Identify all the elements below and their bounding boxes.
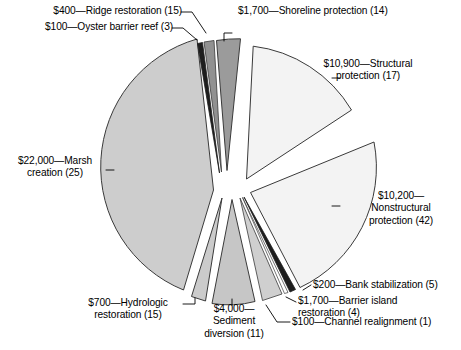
label-nonstructural-protection-line2: Nonstructural — [345, 202, 457, 214]
label-nonstructural-protection: $10,200— Nonstructural protection (42) — [345, 190, 457, 227]
label-sediment-diversion-line3: diversion (11) — [186, 328, 282, 340]
label-nonstructural-protection-line3: protection (42) — [345, 215, 457, 227]
label-hydrologic-restoration-line1: $700—Hydrologic — [74, 297, 182, 309]
label-structural-protection-line1: $10,900—Structural — [303, 58, 433, 70]
leader-barrier-island-restoration — [286, 297, 296, 302]
label-sediment-diversion-line2: Sediment — [186, 315, 282, 327]
slice-marsh-creation[interactable] — [101, 39, 214, 290]
label-sediment-diversion-line1: $4,000— — [186, 303, 282, 315]
label-hydrologic-restoration: $700—Hydrologic restoration (15) — [74, 297, 182, 322]
label-barrier-island-restoration-line1: $1,700—Barrier island — [298, 295, 458, 307]
pie-chart-figure: $400—Ridge restoration (15) $100—Oyster … — [0, 0, 461, 350]
label-marsh-creation: $22,000—Marsh creation (25) — [4, 155, 106, 180]
label-nonstructural-protection-line1: $10,200— — [345, 190, 457, 202]
label-marsh-creation-line2: creation (25) — [4, 167, 106, 179]
label-marsh-creation-line1: $22,000—Marsh — [4, 155, 106, 167]
label-sediment-diversion: $4,000— Sediment diversion (11) — [186, 303, 282, 340]
label-structural-protection-line2: protection (17) — [303, 70, 433, 82]
label-structural-protection: $10,900—Structural protection (17) — [303, 58, 433, 83]
label-hydrologic-restoration-line2: restoration (15) — [74, 309, 182, 321]
label-oyster-barrier-reef: $100—Oyster barrier reef (3) — [28, 21, 173, 33]
label-ridge-restoration: $400—Ridge restoration (15) — [38, 5, 182, 17]
label-shoreline-protection: $1,700—Shoreline protection (14) — [238, 5, 448, 17]
label-bank-stabilization: $200—Bank stabilization (5) — [313, 279, 459, 291]
label-channel-realignment: $100—Channel realignment (1) — [292, 316, 460, 328]
leader-oyster-barrier-reef — [172, 28, 197, 40]
